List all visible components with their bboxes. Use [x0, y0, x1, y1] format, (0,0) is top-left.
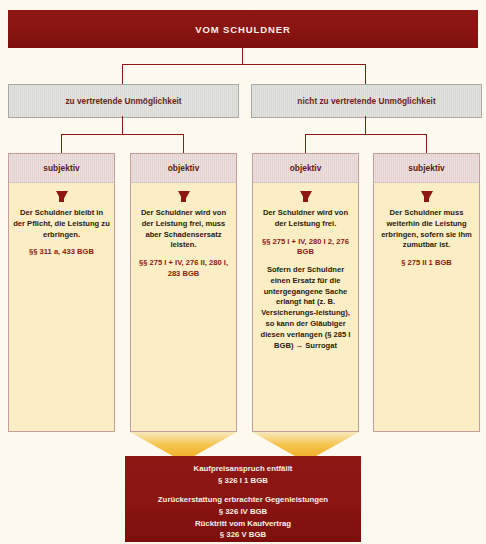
result-node-rechtsfolgen: Kaufpreisanspruch entfällt § 326 I 1 BGB… — [125, 456, 361, 542]
down-arrow-icon — [421, 191, 433, 202]
result-line-6: § 326 V BGB — [131, 529, 355, 541]
column-1-text: Der Schuldner bleibt in der Pflicht, die… — [13, 208, 110, 240]
result-line-5: Rücktritt vom Kaufvertrag — [131, 518, 355, 530]
column-2-text: Der Schuldner wird von der Leistung frei… — [135, 208, 232, 251]
column-1-citation: §§ 311 a, 433 BGB — [13, 247, 110, 258]
column-4-header-label: subjektiv — [408, 163, 444, 173]
connector-to-grey-right — [365, 64, 366, 84]
connector-to-col-3 — [305, 134, 306, 153]
connector-grey-right-stem — [365, 116, 366, 134]
column-2-header: objektiv — [131, 154, 236, 183]
connector-grey-left-stem — [122, 116, 123, 134]
column-4-text: Der Schuldner muss weiterhin die Leistun… — [378, 208, 475, 251]
column-2-body: Der Schuldner wird von der Leistung frei… — [131, 183, 236, 431]
column-1-subjektiv-vertretbar: subjektiv Der Schuldner bleibt in der Pf… — [8, 153, 115, 432]
result-line-1: Kaufpreisanspruch entfällt — [131, 463, 355, 475]
root-node-label: VOM SCHULDNER — [195, 24, 291, 35]
down-arrow-icon — [178, 191, 190, 202]
connector-to-col-1 — [61, 134, 62, 153]
column-3-body: Der Schuldner wird von der Leistung frei… — [253, 183, 358, 431]
result-line-4: § 326 IV BGB — [131, 506, 355, 518]
root-node-vom-schuldner: VOM SCHULDNER — [8, 10, 478, 48]
node-nicht-zu-vertretende-label: nicht zu vertretende Unmöglichkeit — [297, 96, 435, 106]
column-1-header: subjektiv — [9, 154, 114, 183]
connector-grey-left-horizontal — [61, 134, 184, 135]
connector-grey-right-horizontal — [305, 134, 427, 135]
column-3-citation: §§ 275 I + IV, 280 I 2, 276 BGB — [257, 237, 354, 259]
flowchart-diagram: VOM SCHULDNER zu vertretende Unmöglichke… — [0, 0, 486, 544]
column-3-header: objektiv — [253, 154, 358, 183]
column-2-citation: §§ 275 I + IV, 276 II, 280 I, 283 BGB — [135, 258, 232, 280]
column-3-objektiv-nicht-vertretbar: objektiv Der Schuldner wird von der Leis… — [252, 153, 359, 432]
column-4-subjektiv-nicht-vertretbar: subjektiv Der Schuldner muss weiterhin d… — [373, 153, 480, 432]
column-4-citation: § 275 II 1 BGB — [378, 258, 475, 269]
result-line-2: § 326 I 1 BGB — [131, 475, 355, 487]
column-4-header: subjektiv — [374, 154, 479, 183]
column-4-body: Der Schuldner muss weiterhin die Leistun… — [374, 183, 479, 431]
down-arrow-icon — [300, 191, 312, 202]
connector-to-col-4 — [426, 134, 427, 153]
connector-to-col-2 — [183, 134, 184, 153]
column-3-text: Der Schuldner wird von der Leistung frei… — [257, 208, 354, 230]
node-nicht-zu-vertretende-unmoeglichkeit: nicht zu vertretende Unmöglichkeit — [251, 84, 482, 118]
node-zu-vertretende-unmoeglichkeit: zu vertretende Unmöglichkeit — [8, 84, 239, 118]
connector-root-horizontal — [122, 64, 365, 65]
connector-to-grey-left — [122, 64, 123, 84]
column-2-objektiv-vertretbar: objektiv Der Schuldner wird von der Leis… — [130, 153, 237, 432]
node-zu-vertretende-label: zu vertretende Unmöglichkeit — [65, 96, 181, 106]
column-1-header-label: subjektiv — [43, 163, 79, 173]
column-2-header-label: objektiv — [168, 163, 200, 173]
column-3-header-label: objektiv — [290, 163, 322, 173]
connector-root-stem — [242, 48, 243, 64]
column-1-body: Der Schuldner bleibt in der Pflicht, die… — [9, 183, 114, 431]
down-arrow-icon — [56, 191, 68, 202]
column-3-extra-text: Sofern der Schuldner einen Ersatz für di… — [257, 265, 354, 351]
result-line-3: Zurückerstattung erbrachter Gegenleistun… — [131, 494, 355, 506]
result-spacer — [131, 486, 355, 494]
